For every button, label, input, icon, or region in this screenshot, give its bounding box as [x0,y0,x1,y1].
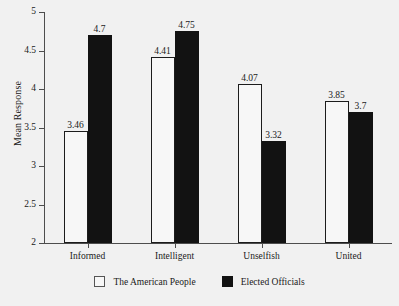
bar-value-label: 4.07 [241,72,258,84]
y-tick: 3.5 [39,128,44,129]
x-tick-label: Intelligent [155,251,194,261]
bar: 4.07 [238,84,262,243]
legend-label: Elected Officials [241,277,305,287]
legend-label: The American People [113,277,195,287]
bar-value-label: 4.7 [94,23,106,35]
legend-swatch-american-people [94,276,105,287]
bar-value-label: 4.41 [154,45,171,57]
plot-area: 22.533.544.55 InformedIntelligentUnselfi… [44,12,392,243]
bar-chart-figure: Mean Response 22.533.544.55 InformedInte… [0,0,399,306]
legend-item: Elected Officials [222,276,305,287]
y-axis-line [44,12,45,243]
x-axis-line [44,243,392,244]
x-tick-label: Unselfish [243,251,279,261]
x-tick [349,243,350,248]
legend-swatch-elected-officials [222,276,233,287]
bar: 3.85 [325,101,349,243]
y-tick: 3 [39,166,44,167]
y-tick: 4.5 [39,51,44,52]
y-tick-label: 5 [31,5,36,18]
y-tick: 2.5 [39,205,44,206]
y-tick-label: 4 [31,82,36,95]
bar: 4.75 [175,31,199,243]
y-tick-label: 4.5 [24,44,36,57]
y-axis-title: Mean Response [12,59,23,169]
x-tick [262,243,263,248]
chart-legend: The American PeopleElected Officials [0,276,399,287]
bar-value-label: 3.7 [355,100,367,112]
legend-item: The American People [94,276,195,287]
bar: 3.32 [262,141,286,243]
x-tick [88,243,89,248]
bar: 4.41 [151,57,175,243]
bar-value-label: 4.75 [178,19,195,31]
bar-value-label: 3.32 [265,129,282,141]
y-tick-label: 2.5 [24,198,36,211]
x-tick [175,243,176,248]
bar: 4.7 [88,35,112,243]
x-tick-label: Informed [70,251,105,261]
y-tick: 2 [39,243,44,244]
bar: 3.7 [349,112,373,243]
y-tick-label: 3 [31,159,36,172]
y-tick: 4 [39,89,44,90]
bar-value-label: 3.46 [67,119,84,131]
y-tick-label: 2 [31,236,36,249]
y-tick-label: 3.5 [24,121,36,134]
bar: 3.46 [64,131,88,243]
y-tick: 5 [39,12,44,13]
x-tick-label: United [336,251,362,261]
bar-value-label: 3.85 [328,89,345,101]
